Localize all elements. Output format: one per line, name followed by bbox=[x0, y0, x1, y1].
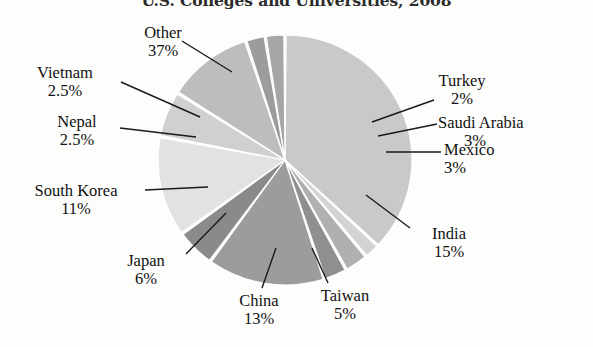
slice-label-india-value: 15% bbox=[412, 243, 486, 261]
slice-label-japan-name: Japan bbox=[127, 251, 165, 270]
slice-label-india-name: India bbox=[432, 224, 466, 243]
slice-label-turkey: Turkey 2% bbox=[420, 72, 504, 107]
slice-label-taiwan-name: Taiwan bbox=[321, 286, 369, 305]
slice-label-turkey-name: Turkey bbox=[438, 71, 485, 90]
slice-label-saudi-arabia-name: Saudi Arabia bbox=[438, 113, 524, 132]
chart-canvas: U.S. Colleges and Universities, 2008 Oth… bbox=[0, 0, 593, 347]
slice-label-taiwan-value: 5% bbox=[306, 305, 384, 323]
slice-label-south-korea-name: South Korea bbox=[35, 181, 118, 200]
slice-label-japan: Japan 6% bbox=[106, 252, 186, 287]
slice-label-south-korea-value: 11% bbox=[6, 200, 146, 218]
slice-label-nepal-value: 2.5% bbox=[34, 131, 120, 149]
slice-label-saudi-arabia: Saudi Arabia 3% bbox=[438, 114, 588, 149]
slice-label-other-value: 37% bbox=[118, 42, 208, 60]
slice-label-vietnam-value: 2.5% bbox=[10, 82, 120, 100]
slice-label-vietnam: Vietnam 2.5% bbox=[10, 64, 120, 99]
slice-label-saudi-arabia-value: 3% bbox=[464, 132, 588, 150]
slice-label-vietnam-name: Vietnam bbox=[37, 63, 93, 82]
slice-label-other-name: Other bbox=[144, 23, 182, 42]
slice-label-other: Other 37% bbox=[118, 24, 208, 59]
slice-label-china: China 13% bbox=[222, 292, 296, 327]
slice-label-mexico-value: 3% bbox=[444, 159, 526, 177]
slice-label-china-name: China bbox=[239, 291, 278, 310]
slice-label-japan-value: 6% bbox=[106, 270, 186, 288]
slice-label-turkey-value: 2% bbox=[420, 90, 504, 108]
pie-slices-group bbox=[158, 35, 412, 285]
slice-label-nepal: Nepal 2.5% bbox=[34, 113, 120, 148]
slice-label-china-value: 13% bbox=[222, 310, 296, 328]
slice-label-nepal-name: Nepal bbox=[57, 112, 96, 131]
slice-label-taiwan: Taiwan 5% bbox=[306, 287, 384, 322]
slice-label-india: India 15% bbox=[412, 225, 486, 260]
slice-label-south-korea: South Korea 11% bbox=[6, 182, 146, 217]
